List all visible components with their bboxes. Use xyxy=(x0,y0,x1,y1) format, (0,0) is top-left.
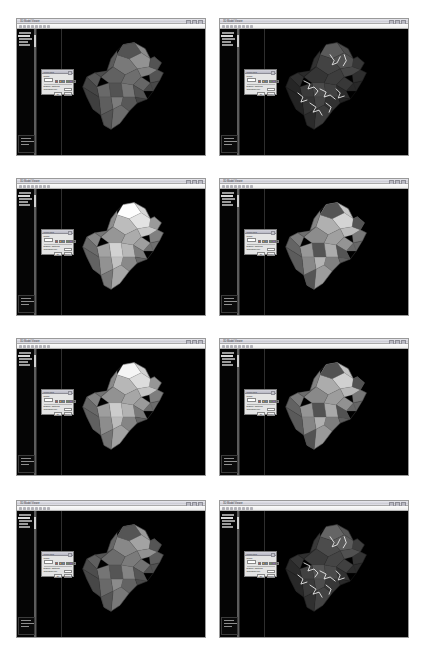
properties-dialog[interactable]: PropertiesNameDisplay OptionsTransparenc… xyxy=(41,229,74,255)
sidebar-item-selected[interactable] xyxy=(18,35,30,37)
undo-icon[interactable] xyxy=(27,345,30,348)
save-icon[interactable] xyxy=(226,507,229,510)
sidebar-item-selected[interactable] xyxy=(18,355,30,357)
viewport[interactable]: PropertiesNameDisplay OptionsTransparenc… xyxy=(17,29,205,155)
pan-icon[interactable] xyxy=(246,185,249,188)
transparency-input[interactable] xyxy=(64,408,72,411)
ok-button[interactable]: OK xyxy=(257,252,265,255)
cancel-button[interactable]: Cancel xyxy=(267,574,276,577)
sidebar[interactable] xyxy=(220,29,240,155)
measure-icon[interactable] xyxy=(47,507,50,510)
properties-dialog[interactable]: PropertiesNameDisplay OptionsTransparenc… xyxy=(41,69,74,95)
pan-icon[interactable] xyxy=(43,25,46,28)
name-input[interactable] xyxy=(247,560,256,563)
zoom-icon[interactable] xyxy=(238,25,241,28)
sidebar-item[interactable] xyxy=(19,352,31,354)
save-icon[interactable] xyxy=(23,507,26,510)
measure-icon[interactable] xyxy=(250,507,253,510)
save-icon[interactable] xyxy=(226,185,229,188)
rotate-icon[interactable] xyxy=(242,345,245,348)
ok-button[interactable]: OK xyxy=(54,92,62,95)
sidebar-item[interactable] xyxy=(222,41,231,43)
measure-icon[interactable] xyxy=(250,345,253,348)
sidebar-item[interactable] xyxy=(222,192,234,194)
properties-dialog[interactable]: PropertiesNameDisplay OptionsTransparenc… xyxy=(41,389,74,415)
sidebar-item[interactable] xyxy=(19,514,31,516)
transparency-input[interactable] xyxy=(64,248,72,251)
sidebar-item[interactable] xyxy=(222,198,235,200)
open-icon[interactable] xyxy=(222,507,225,510)
sidebar-item[interactable] xyxy=(222,44,233,46)
color-swatch[interactable] xyxy=(73,400,76,403)
sidebar[interactable] xyxy=(220,189,240,315)
rotate-icon[interactable] xyxy=(242,185,245,188)
scrollbar-thumb[interactable] xyxy=(34,355,37,367)
color-swatch[interactable] xyxy=(73,240,76,243)
sidebar-item-selected[interactable] xyxy=(18,517,30,519)
zoom-icon[interactable] xyxy=(238,345,241,348)
measure-icon[interactable] xyxy=(47,345,50,348)
name-input[interactable] xyxy=(44,398,53,401)
sidebar[interactable] xyxy=(17,29,37,155)
transparency-input[interactable] xyxy=(64,88,72,91)
sidebar-item[interactable] xyxy=(222,352,234,354)
save-icon[interactable] xyxy=(23,185,26,188)
redo-icon[interactable] xyxy=(234,185,237,188)
pan-icon[interactable] xyxy=(246,345,249,348)
properties-dialog[interactable]: PropertiesNameDisplay OptionsTransparenc… xyxy=(244,389,277,415)
viewport[interactable]: PropertiesNameDisplay OptionsTransparenc… xyxy=(220,511,408,637)
color-swatch[interactable] xyxy=(276,240,279,243)
sidebar-item-selected[interactable] xyxy=(221,355,233,357)
redo-icon[interactable] xyxy=(234,25,237,28)
scrollbar-thumb[interactable] xyxy=(237,355,240,367)
sidebar-item-selected[interactable] xyxy=(221,195,233,197)
scrollbar-thumb[interactable] xyxy=(34,35,37,47)
rotate-icon[interactable] xyxy=(39,185,42,188)
cancel-button[interactable]: Cancel xyxy=(267,92,276,95)
open-icon[interactable] xyxy=(19,25,22,28)
open-icon[interactable] xyxy=(222,185,225,188)
pan-icon[interactable] xyxy=(246,25,249,28)
sidebar-item[interactable] xyxy=(19,198,32,200)
sidebar[interactable] xyxy=(220,349,240,475)
save-icon[interactable] xyxy=(23,25,26,28)
scrollbar-thumb[interactable] xyxy=(237,195,240,207)
rotate-icon[interactable] xyxy=(242,25,245,28)
sidebar-item[interactable] xyxy=(19,520,32,522)
viewport[interactable]: PropertiesNameDisplay OptionsTransparenc… xyxy=(17,511,205,637)
undo-icon[interactable] xyxy=(230,185,233,188)
undo-icon[interactable] xyxy=(230,345,233,348)
sidebar-item-selected[interactable] xyxy=(18,195,30,197)
properties-dialog[interactable]: PropertiesNameDisplay OptionsTransparenc… xyxy=(41,551,74,577)
scrollbar-thumb[interactable] xyxy=(237,517,240,529)
viewport[interactable]: PropertiesNameDisplay OptionsTransparenc… xyxy=(220,189,408,315)
redo-icon[interactable] xyxy=(31,507,34,510)
cancel-button[interactable]: Cancel xyxy=(267,412,276,415)
ok-button[interactable]: OK xyxy=(257,574,265,577)
sidebar[interactable] xyxy=(220,511,240,637)
sidebar-item[interactable] xyxy=(19,364,30,366)
scrollbar-thumb[interactable] xyxy=(237,35,240,47)
name-input[interactable] xyxy=(44,238,53,241)
open-icon[interactable] xyxy=(222,25,225,28)
sidebar-item[interactable] xyxy=(19,44,30,46)
undo-icon[interactable] xyxy=(27,25,30,28)
open-icon[interactable] xyxy=(19,345,22,348)
undo-icon[interactable] xyxy=(230,25,233,28)
sidebar-item-selected[interactable] xyxy=(221,517,233,519)
redo-icon[interactable] xyxy=(31,185,34,188)
sidebar-item[interactable] xyxy=(222,358,235,360)
redo-icon[interactable] xyxy=(234,345,237,348)
measure-icon[interactable] xyxy=(47,25,50,28)
scrollbar-thumb[interactable] xyxy=(34,517,37,529)
undo-icon[interactable] xyxy=(27,507,30,510)
properties-dialog[interactable]: PropertiesNameDisplay OptionsTransparenc… xyxy=(244,69,277,95)
measure-icon[interactable] xyxy=(250,25,253,28)
sidebar-item[interactable] xyxy=(222,38,235,40)
rotate-icon[interactable] xyxy=(39,25,42,28)
sidebar-item[interactable] xyxy=(222,514,234,516)
color-swatch[interactable] xyxy=(73,80,76,83)
name-input[interactable] xyxy=(247,78,256,81)
open-icon[interactable] xyxy=(19,507,22,510)
pan-icon[interactable] xyxy=(43,507,46,510)
